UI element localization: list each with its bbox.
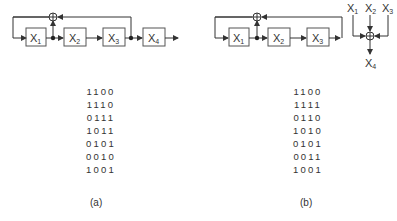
xor-input-x1-label: X1 bbox=[347, 2, 358, 15]
sequence-row: 1010 bbox=[283, 124, 333, 137]
sequence-row: 1110 bbox=[76, 98, 126, 111]
xor-input-x2-label: X2 bbox=[365, 2, 376, 15]
sequence-row: 0011 bbox=[283, 150, 333, 163]
sequence-row: 1100 bbox=[76, 85, 126, 98]
sequence-row: 1111 bbox=[283, 98, 333, 111]
tap-node-icon bbox=[129, 36, 133, 40]
register-x2-label: X2 bbox=[273, 32, 284, 45]
sequence-row: 0101 bbox=[283, 137, 333, 150]
panel-b-diagram bbox=[215, 15, 388, 54]
caption-b: (b) bbox=[300, 197, 312, 208]
sequence-row: 1100 bbox=[283, 85, 333, 98]
sequence-row: 0110 bbox=[283, 111, 333, 124]
xor-gate-icon bbox=[49, 13, 57, 21]
sequence-row: 1001 bbox=[76, 163, 126, 176]
sequence-row: 0111 bbox=[76, 111, 126, 124]
sequence-table-b: 1100 1111 0110 1010 0101 0011 1001 bbox=[283, 85, 333, 176]
xor-output-x4-label: X4 bbox=[365, 57, 376, 70]
xor-gate-icon bbox=[366, 32, 374, 40]
sequence-row: 0101 bbox=[76, 137, 126, 150]
register-x4-label: X4 bbox=[148, 32, 159, 45]
tap-node-icon bbox=[51, 36, 55, 40]
tap-node-icon bbox=[255, 36, 259, 40]
register-x3-label: X3 bbox=[108, 32, 119, 45]
register-x3-label: X3 bbox=[312, 32, 323, 45]
register-x1-label: X1 bbox=[233, 32, 244, 45]
caption-a: (a) bbox=[90, 197, 102, 208]
register-x1-label: X1 bbox=[30, 32, 41, 45]
xor-gate-icon bbox=[253, 13, 261, 21]
shift-register-diagrams: X1 X2 X3 X4 X1 X2 X3 X1 X2 X3 X4 bbox=[0, 0, 397, 221]
sequence-row: 1011 bbox=[76, 124, 126, 137]
sequence-row: 1001 bbox=[283, 163, 333, 176]
xor-input-x3-label: X3 bbox=[382, 2, 393, 15]
register-x2-label: X2 bbox=[69, 32, 80, 45]
sequence-table-a: 1100 1110 0111 1011 0101 0010 1001 bbox=[76, 85, 126, 176]
sequence-row: 0010 bbox=[76, 150, 126, 163]
